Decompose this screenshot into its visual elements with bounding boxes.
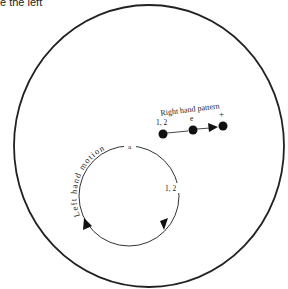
connector-line xyxy=(167,131,188,133)
arrow-right-icon xyxy=(208,123,218,132)
left-hand-motion-circle xyxy=(79,146,179,246)
beat-dot xyxy=(159,130,168,139)
beat-label-plus: + xyxy=(219,109,224,119)
hand-motion-diagram: Left hand motion a 1, 2 Right hand patte… xyxy=(0,0,288,289)
beat-dot xyxy=(219,122,228,131)
beat-dot xyxy=(189,126,198,135)
beat-label-1-2: 1, 2 xyxy=(156,118,168,127)
connector-line xyxy=(197,128,210,129)
left-hand-beat-label: 1, 2 xyxy=(165,184,177,193)
beat-label-e: e xyxy=(190,114,194,123)
outer-circle xyxy=(14,5,284,287)
left-hand-motion-label: Left hand motion xyxy=(68,142,106,218)
